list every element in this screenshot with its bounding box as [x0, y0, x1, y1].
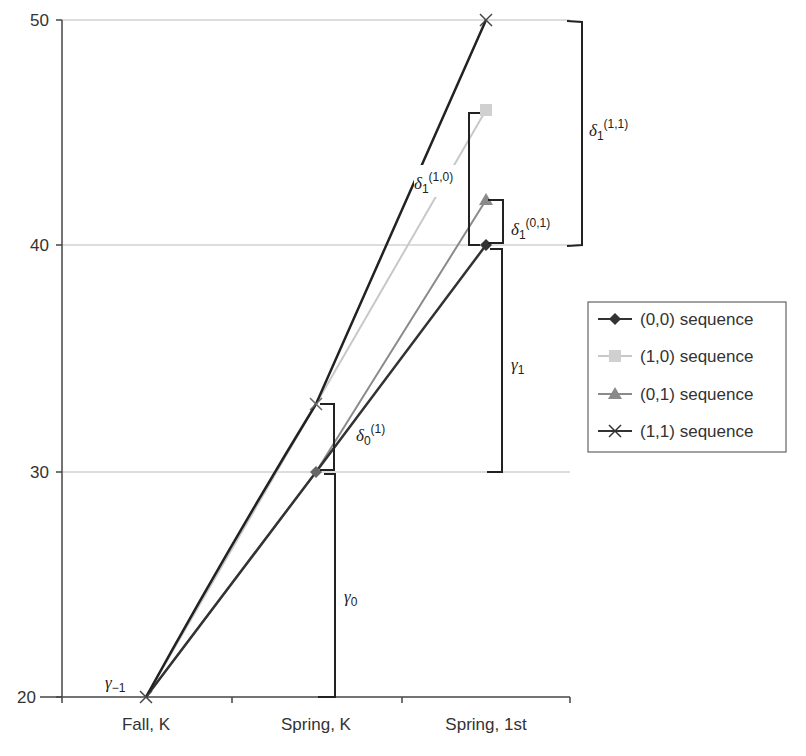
series-0-0 [146, 239, 492, 697]
x-tick-spring-1st: Spring, 1st [445, 715, 527, 734]
square-marker-icon [609, 350, 621, 362]
annotation-delta0: δ0(1) [356, 422, 385, 448]
svg-text:(0,0) sequence: (0,0) sequence [640, 310, 753, 329]
y-tick-30: 30 [30, 463, 49, 482]
annotation-gamma1: γ1 [511, 355, 525, 377]
svg-text:δ0(1): δ0(1) [356, 422, 385, 448]
annotation-gamma0: γ0 [344, 587, 358, 609]
y-tick-40: 40 [30, 236, 49, 255]
y-axis [56, 20, 62, 697]
svg-text:γ−1: γ−1 [105, 673, 126, 695]
x-tick-fall-k: Fall, K [122, 715, 171, 734]
series-0-1 [146, 193, 493, 697]
svg-text:γ1: γ1 [511, 355, 525, 377]
svg-text:δ1(0,1): δ1(0,1) [511, 216, 550, 242]
svg-text:(1,0) sequence: (1,0) sequence [640, 347, 753, 366]
svg-text:δ1(1,1): δ1(1,1) [589, 117, 628, 143]
svg-text:γ0: γ0 [344, 587, 358, 609]
svg-text:(1,1) sequence: (1,1) sequence [640, 422, 753, 441]
x-tick-spring-k: Spring, K [281, 715, 352, 734]
y-tick-50: 50 [30, 11, 49, 30]
x-axis [40, 697, 570, 703]
svg-text:(0,1) sequence: (0,1) sequence [640, 385, 753, 404]
chart: 50 40 30 20 Fall, K Spring, K Spring, 1s… [0, 0, 806, 756]
legend: (0,0) sequence (1,0) sequence (0,1) sequ… [588, 302, 786, 452]
series-1-1 [140, 14, 492, 703]
brackets [318, 21, 582, 697]
annotation-delta1-11: δ1(1,1) [589, 117, 628, 143]
y-tick-20: 20 [17, 688, 36, 707]
annotation-gamma-minus1: γ−1 [105, 673, 126, 695]
annotation-delta1-01: δ1(0,1) [511, 216, 550, 242]
